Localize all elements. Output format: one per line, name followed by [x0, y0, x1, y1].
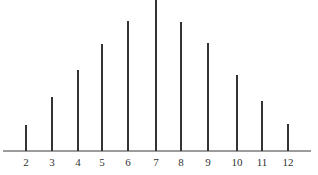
x-tick-label-2: 2	[23, 156, 29, 168]
x-tick-label-12: 12	[283, 156, 294, 168]
x-tick-label-6: 6	[125, 156, 131, 168]
dice-sum-bar-chart: 23456789101112	[0, 0, 318, 175]
x-tick-labels: 23456789101112	[23, 156, 293, 168]
bars-group	[26, 0, 288, 151]
x-tick-label-5: 5	[99, 156, 105, 168]
x-tick-label-8: 8	[178, 156, 184, 168]
x-tick-label-7: 7	[153, 156, 159, 168]
x-tick-label-3: 3	[49, 156, 55, 168]
x-tick-label-10: 10	[232, 156, 244, 168]
x-tick-label-9: 9	[205, 156, 211, 168]
x-tick-label-4: 4	[75, 156, 81, 168]
x-tick-label-11: 11	[257, 156, 268, 168]
